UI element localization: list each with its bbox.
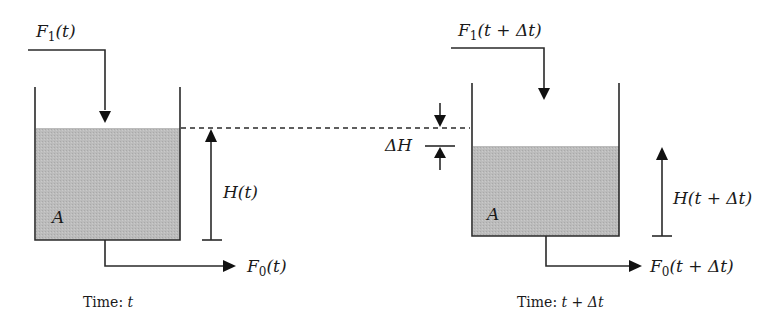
left-outflow-pipe (105, 240, 224, 266)
right-inflow-pipe (451, 48, 544, 88)
right-outflow-label: F0(t + Δt) (649, 256, 734, 279)
right-time-caption: Time: t + Δt (517, 294, 604, 310)
right-tank-group: F1(t + Δt) F0(t + Δt) A H(t + Δt) Time: … (451, 20, 752, 310)
delta-up-arrow-icon (434, 147, 446, 158)
left-outflow-arrow-icon (223, 260, 236, 272)
right-area-label: A (485, 204, 499, 224)
delta-down-arrow-icon (434, 115, 446, 127)
right-inflow-arrow-icon (538, 88, 550, 100)
left-height-arrow-icon (205, 129, 217, 142)
delta-h-indicator: ΔH (384, 103, 455, 170)
left-time-caption: Time: t (83, 294, 134, 310)
left-inflow-arrow-icon (99, 111, 111, 123)
left-inflow-pipe (28, 50, 105, 110)
left-area-label: A (50, 207, 64, 227)
left-outflow-label: F0(t) (246, 256, 287, 279)
left-tank-group: F1(t) F0(t) A H(t) Time: t (28, 21, 287, 310)
delta-h-label: ΔH (384, 135, 413, 155)
right-outflow-pipe (546, 236, 630, 266)
right-inflow-label: F1(t + Δt) (457, 20, 542, 43)
right-height-arrow-icon (656, 147, 668, 160)
right-outflow-arrow-icon (629, 260, 642, 272)
left-height-label: H(t) (222, 182, 258, 202)
left-inflow-label: F1(t) (35, 21, 76, 44)
right-height-label: H(t + Δt) (672, 188, 752, 208)
tank-diagram: F1(t) F0(t) A H(t) Time: t ΔH (0, 0, 775, 330)
